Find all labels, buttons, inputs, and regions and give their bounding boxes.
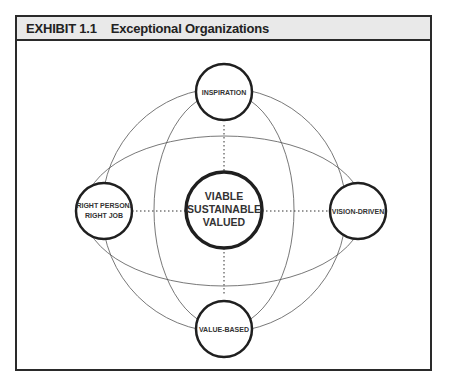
node-value-based-label: VALUE-BASED <box>199 326 249 333</box>
center-line-1: VIABLE <box>205 190 244 202</box>
organization-globe-diagram: VIABLE SUSTAINABLE VALUED INSPIRATION VI… <box>0 0 449 387</box>
node-right-person-right-job: RIGHT PERSON/ RIGHT JOB <box>76 183 132 239</box>
center-line-2: SUSTAINABLE <box>187 203 261 215</box>
center-node: VIABLE SUSTAINABLE VALUED <box>186 172 262 248</box>
node-vision-driven: VISION-DRIVEN <box>330 183 386 239</box>
node-inspiration: INSPIRATION <box>196 64 252 120</box>
center-line-3: VALUED <box>203 216 246 228</box>
node-inspiration-label: INSPIRATION <box>202 89 247 96</box>
node-left-line-2: RIGHT JOB <box>85 212 123 219</box>
node-vision-driven-label: VISION-DRIVEN <box>332 208 385 215</box>
node-value-based: VALUE-BASED <box>196 301 252 357</box>
node-left-line-1: RIGHT PERSON/ <box>76 202 131 209</box>
